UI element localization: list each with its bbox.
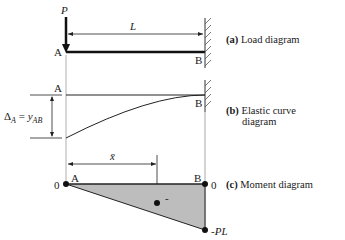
elastic-curve [66,95,205,138]
caption-elastic-curve: (b) Elastic curve diagram [226,105,296,127]
elastic-point-b: B [195,97,202,109]
moment-point-a: A [71,172,79,184]
moment-point-b: B [194,172,201,184]
min-moment-dot [202,227,208,233]
deflection-label: ΔA = yAB [4,110,42,127]
caption-load-diagram: (a) Load diagram [226,34,299,45]
moment-area [66,184,205,230]
moment-sign: - [165,192,169,204]
load-diagram [62,17,211,68]
load-point-a: A [54,46,62,58]
dim-arrow-left-icon [68,32,73,36]
load-point-b: B [195,54,202,66]
wall-hatch-b-icon [205,80,211,107]
xbar-arrow-right-icon [151,162,156,166]
moment-diagram [63,181,208,233]
deflection-arrow-down-icon [50,132,54,137]
moment-value-left: 0 [54,179,60,191]
xbar-arrow-left-icon [68,162,73,166]
deflection-arrow-up-icon [50,96,54,101]
point-a-dot [63,181,69,187]
length-label: L [130,20,136,32]
moment-value-min: -PL [211,225,228,237]
centroid-dot [154,200,160,206]
force-label: P [61,4,68,16]
wall-hatch-icon [205,18,211,66]
xbar-label: x̄ [110,150,115,162]
elastic-point-a: A [54,82,62,94]
point-b-dot [202,181,208,187]
caption-moment-diagram: (c) Moment diagram [226,179,313,190]
moment-value-right: 0 [211,179,217,191]
dim-arrow-right-icon [198,32,203,36]
